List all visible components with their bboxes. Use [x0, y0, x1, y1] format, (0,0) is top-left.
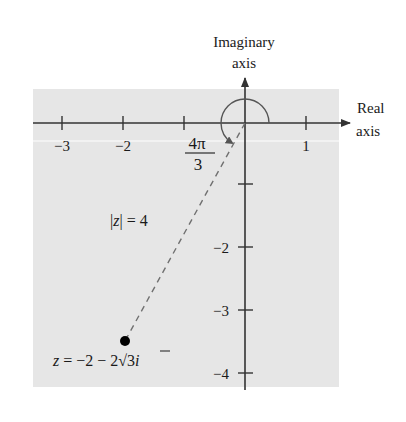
- point-label-sqrt: √: [118, 352, 127, 369]
- imag-tick-label-neg2: −2: [213, 240, 229, 256]
- modulus-rest: | = 4: [119, 212, 147, 230]
- point-label-rest: = −2 − 2: [59, 352, 118, 369]
- imaginary-axis-label-line2: axis: [232, 55, 256, 71]
- point-z: [120, 336, 130, 346]
- real-tick-label-1: 1: [302, 138, 310, 154]
- complex-plane-figure: −3 −2 1 −2 −3 −4 Imaginary axis Real axi…: [0, 0, 406, 422]
- real-tick-label-neg3: −3: [54, 138, 70, 154]
- angle-label-numerator: 4π: [188, 134, 206, 153]
- imag-tick-label-neg3: −3: [213, 303, 229, 319]
- plot-background: [33, 89, 339, 387]
- real-tick-label-neg2: −2: [115, 138, 131, 154]
- complex-plane-svg: −3 −2 1 −2 −3 −4 Imaginary axis Real axi…: [0, 0, 406, 422]
- real-axis-label-line2: axis: [356, 123, 380, 139]
- point-label-radicand: 3: [127, 352, 135, 369]
- real-axis-label-line1: Real: [357, 100, 385, 116]
- point-label: z = −2 − 2√3i: [52, 352, 140, 369]
- imaginary-axis-label-line1: Imaginary: [213, 34, 275, 50]
- angle-label-denominator: 3: [194, 155, 203, 174]
- point-label-i: i: [135, 352, 139, 369]
- modulus-label: |z| = 4: [110, 212, 148, 230]
- imag-tick-label-neg4: −4: [213, 366, 229, 382]
